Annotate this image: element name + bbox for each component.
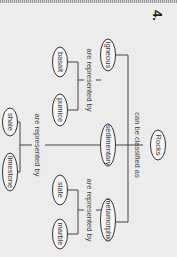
link-igneous-represented-by: are represented by <box>85 49 94 112</box>
svg-text:basalt: basalt <box>56 52 65 73</box>
node-basalt: basalt <box>53 47 68 77</box>
node-rocks: Rocks <box>151 130 166 160</box>
svg-text:slate: slate <box>56 182 65 198</box>
node-limestone: limestone <box>3 153 18 191</box>
node-slate: slate <box>53 175 68 205</box>
node-marble: marble <box>53 219 68 249</box>
svg-text:igneous: igneous <box>104 42 113 69</box>
svg-text:sedimentary: sedimentary <box>104 125 113 166</box>
link-can-be-classified-as: can be classified as <box>133 112 142 178</box>
node-pumice: pumice <box>53 94 68 126</box>
node-igneous: igneous <box>101 39 116 71</box>
svg-text:metamorphic: metamorphic <box>104 198 113 242</box>
node-sedimentary: sedimentary <box>101 124 116 166</box>
svg-text:limestone: limestone <box>6 156 15 188</box>
link-metamorphic-represented-by: are represented by <box>85 179 94 242</box>
link-sedimentary-represented-by: are represented by <box>33 114 42 177</box>
svg-text:pumice: pumice <box>56 98 65 122</box>
question-number: 4. <box>150 10 165 21</box>
svg-text:Rocks: Rocks <box>154 135 163 156</box>
node-metamorphic: metamorphic <box>101 198 116 242</box>
rock-concept-map: 4. Rocks can be classified as igneous se… <box>0 0 177 257</box>
svg-text:marble: marble <box>56 223 65 246</box>
node-shale: shale <box>3 108 18 136</box>
svg-text:shale: shale <box>6 113 15 131</box>
